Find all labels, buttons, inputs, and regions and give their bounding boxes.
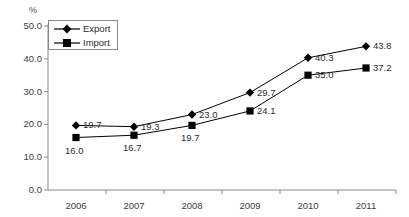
legend-label-export: Export xyxy=(83,24,110,34)
data-point-label: 16.7 xyxy=(123,143,142,153)
x-axis-ticks xyxy=(106,190,396,194)
data-point-diamond-icon[interactable] xyxy=(188,110,196,118)
y-axis-tick-label: 50.0 xyxy=(4,21,42,31)
data-point-label: 24.1 xyxy=(257,106,276,116)
x-axis-tick-label: 2011 xyxy=(341,201,391,211)
y-axis-tick-label: 10.0 xyxy=(4,152,42,162)
data-point-square-icon[interactable] xyxy=(362,64,369,71)
y-axis-tick-label: 30.0 xyxy=(4,87,42,97)
data-point-square-icon[interactable] xyxy=(304,72,311,79)
chart-legend[interactable]: Export Import xyxy=(48,20,118,50)
x-axis-tick-label: 2009 xyxy=(225,201,275,211)
data-point-square-icon[interactable] xyxy=(130,132,137,139)
data-point-diamond-icon[interactable] xyxy=(72,121,80,129)
data-point-label: 29.7 xyxy=(257,88,276,98)
data-point-label: 19.3 xyxy=(141,122,160,132)
y-axis-ticks xyxy=(44,26,48,190)
data-point-square-icon[interactable] xyxy=(72,134,79,141)
y-axis-tick-label: 20.0 xyxy=(4,119,42,129)
data-point-label: 19.7 xyxy=(181,133,200,143)
legend-marker-diamond-icon xyxy=(53,22,81,36)
data-point-label: 43.8 xyxy=(373,41,392,51)
data-point-square-icon[interactable] xyxy=(188,122,195,129)
data-point-label: 35.0 xyxy=(315,70,334,80)
legend-label-import: Import xyxy=(83,38,110,48)
x-axis-tick-label: 2006 xyxy=(51,201,101,211)
data-point-diamond-icon[interactable] xyxy=(246,88,254,96)
data-point-label: 16.0 xyxy=(65,146,84,156)
line-chart: % 0.010.020.030.040.050.0 20062007200820… xyxy=(0,0,409,217)
y-axis-tick-label: 0.0 xyxy=(4,185,42,195)
x-axis-tick-label: 2010 xyxy=(283,201,333,211)
x-axis-tick-label: 2007 xyxy=(109,201,159,211)
legend-marker-square-icon xyxy=(53,36,81,50)
data-point-label: 37.2 xyxy=(373,63,392,73)
data-point-label: 40.3 xyxy=(315,53,334,63)
data-point-label: 23.0 xyxy=(199,110,218,120)
data-point-square-icon[interactable] xyxy=(246,107,253,114)
y-axis-tick-label: 40.0 xyxy=(4,54,42,64)
data-point-diamond-icon[interactable] xyxy=(130,122,138,130)
legend-entry-import[interactable]: Import xyxy=(49,36,117,50)
data-point-diamond-icon[interactable] xyxy=(362,42,370,50)
data-point-label: 19.7 xyxy=(83,120,102,130)
y-axis-unit-label: % xyxy=(29,6,37,15)
data-point-diamond-icon[interactable] xyxy=(304,54,312,62)
legend-entry-export[interactable]: Export xyxy=(49,22,117,36)
x-axis-tick-label: 2008 xyxy=(167,201,217,211)
